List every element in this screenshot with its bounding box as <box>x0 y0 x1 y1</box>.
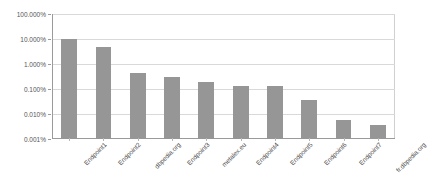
y-tick-text: 100.000% <box>17 11 46 18</box>
x-tick-label: Endpoint6 <box>323 141 348 166</box>
y-tick-mark <box>48 89 51 90</box>
x-tick-label: metalex.eu <box>221 141 248 168</box>
x-tick-mark <box>344 138 345 141</box>
y-tick-label: 0.010% <box>0 111 46 118</box>
y-tick-mark <box>48 39 51 40</box>
bar <box>370 125 386 139</box>
y-tick-text: 0.001% <box>24 136 46 143</box>
bar <box>301 100 317 139</box>
x-tick-label: fr.dbpedia.org <box>394 141 427 174</box>
y-tick-text: 0.100% <box>24 86 46 93</box>
x-tick-label: Endpoint5 <box>288 141 313 166</box>
x-tick-mark <box>275 138 276 141</box>
y-tick-label: 1.000% <box>0 61 46 68</box>
x-tick-label: Endpoint2 <box>117 141 142 166</box>
x-tick-mark <box>378 138 379 141</box>
y-tick-text: 1.000% <box>24 61 46 68</box>
x-tick-label: Endpoint1 <box>83 141 108 166</box>
x-tick-label: dbpedia.org <box>153 141 182 170</box>
y-tick-mark <box>48 114 51 115</box>
y-tick-label: 0.001% <box>0 136 46 143</box>
y-tick-mark <box>48 14 51 15</box>
y-tick-mark <box>48 64 51 65</box>
y-tick-label: 100.000% <box>0 11 46 18</box>
bar <box>267 86 283 139</box>
x-tick-mark <box>138 138 139 141</box>
x-axis-labels: Endpoint1Endpoint2dbpedia.orgEndpoint3me… <box>52 141 395 193</box>
x-tick-label: Endpoint4 <box>254 141 279 166</box>
x-tick-mark <box>206 138 207 141</box>
bar <box>198 82 214 139</box>
x-tick-mark <box>69 138 70 141</box>
bar <box>61 39 77 139</box>
x-tick-label: Endpoint7 <box>357 141 382 166</box>
x-tick-mark <box>241 138 242 141</box>
y-tick-text: 10.000% <box>20 36 46 43</box>
x-tick-mark <box>309 138 310 141</box>
bar-series <box>52 14 395 139</box>
y-axis: 100.000% 10.000% 1.000% 0.100% 0.010% 0.… <box>0 14 48 139</box>
y-tick-label: 10.000% <box>0 36 46 43</box>
y-tick-label: 0.100% <box>0 86 46 93</box>
x-tick-mark <box>103 138 104 141</box>
y-tick-text: 0.010% <box>24 111 46 118</box>
plot-area <box>52 14 395 139</box>
bar <box>336 120 352 139</box>
x-tick-label: Endpoint3 <box>185 141 210 166</box>
bar <box>96 47 112 139</box>
bar <box>164 77 180 139</box>
y-tick-mark <box>48 139 51 140</box>
x-tick-mark <box>172 138 173 141</box>
bar <box>130 73 146 139</box>
bar <box>233 86 249 139</box>
